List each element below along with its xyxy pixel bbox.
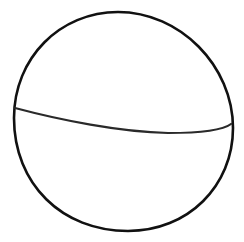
sphere-diagram <box>0 0 244 242</box>
sphere-drawing <box>0 0 244 242</box>
sphere-outline <box>14 12 233 231</box>
equator-line <box>15 108 231 133</box>
